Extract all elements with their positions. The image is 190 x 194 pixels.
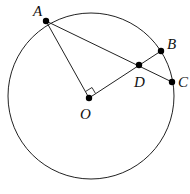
point-B bbox=[158, 48, 164, 54]
point-A bbox=[43, 18, 49, 24]
geometry-diagram: A B C D O bbox=[0, 0, 190, 194]
point-D bbox=[136, 62, 142, 68]
point-O bbox=[86, 95, 92, 101]
label-O: O bbox=[80, 106, 91, 122]
label-C: C bbox=[178, 74, 189, 90]
segment-AO bbox=[46, 21, 89, 98]
label-A: A bbox=[32, 3, 43, 19]
segment-OB bbox=[89, 51, 161, 98]
label-D: D bbox=[133, 74, 145, 90]
segment-AC bbox=[46, 21, 172, 82]
diagram-canvas: A B C D O bbox=[0, 0, 190, 194]
right-angle-marker bbox=[86, 88, 96, 94]
label-B: B bbox=[167, 36, 176, 52]
point-C bbox=[169, 79, 175, 85]
